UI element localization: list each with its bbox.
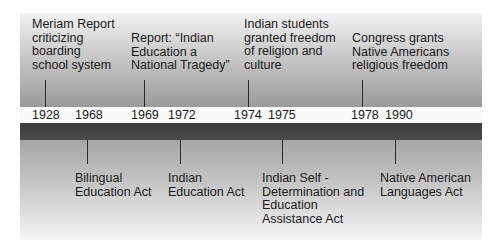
event-tick-above (144, 80, 145, 107)
event-label-below: Indian Education Act (168, 172, 244, 199)
timeline-axis-bar (20, 123, 482, 140)
year-label: 1974 (234, 108, 262, 122)
year-label: 1975 (268, 108, 296, 122)
event-label-above: Meriam Report criticizing boarding schoo… (32, 18, 115, 72)
event-tick-above (45, 80, 46, 107)
event-label-below: Native American Languages Act (380, 172, 471, 199)
event-label-above: Indian students granted freedom of relig… (244, 18, 336, 72)
year-label: 1990 (385, 108, 413, 122)
event-tick-below (180, 140, 181, 164)
year-label: 1972 (168, 108, 196, 122)
event-label-above: Report: “Indian Education a National Tra… (131, 32, 230, 73)
year-label: 1969 (131, 108, 159, 122)
event-tick-above (362, 80, 363, 107)
event-tick-below (395, 140, 396, 164)
event-label-below: Indian Self - Determination and Educatio… (262, 172, 364, 226)
event-tick-above (248, 80, 249, 107)
year-label: 1978 (351, 108, 379, 122)
event-tick-below (282, 140, 283, 164)
year-label: 1968 (75, 108, 103, 122)
event-tick-below (87, 140, 88, 164)
event-label-below: Bilingual Education Act (75, 172, 151, 199)
event-label-above: Congress grants Native Americans religio… (352, 32, 449, 73)
year-label: 1928 (32, 108, 60, 122)
